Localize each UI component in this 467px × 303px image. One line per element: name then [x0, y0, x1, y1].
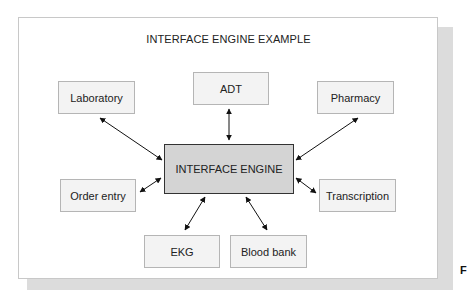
node-blood-bank: Blood bank: [230, 235, 307, 268]
node-ekg: EKG: [144, 235, 220, 268]
node-label: Order entry: [70, 190, 126, 202]
arrow-laboratory: [100, 118, 162, 160]
node-interface-engine: INTERFACE ENGINE: [164, 144, 294, 194]
node-label: Transcription: [326, 190, 389, 202]
node-pharmacy: Pharmacy: [317, 81, 394, 114]
node-label: ADT: [220, 83, 242, 95]
arrow-pharmacy: [296, 118, 358, 160]
center-label: INTERFACE ENGINE: [176, 163, 283, 175]
node-label: Pharmacy: [331, 92, 381, 104]
arrow-ekg: [185, 197, 205, 230]
node-label: Laboratory: [70, 92, 123, 104]
node-adt: ADT: [193, 72, 269, 105]
cropped-caption-letter: F: [460, 264, 467, 276]
node-transcription: Transcription: [319, 179, 396, 212]
node-label: Blood bank: [241, 246, 296, 258]
arrow-blood-bank: [246, 197, 267, 230]
node-label: EKG: [170, 246, 193, 258]
node-laboratory: Laboratory: [58, 81, 135, 114]
arrow-order-entry: [140, 178, 161, 192]
arrow-transcription: [296, 178, 316, 193]
node-order-entry: Order entry: [60, 179, 136, 212]
